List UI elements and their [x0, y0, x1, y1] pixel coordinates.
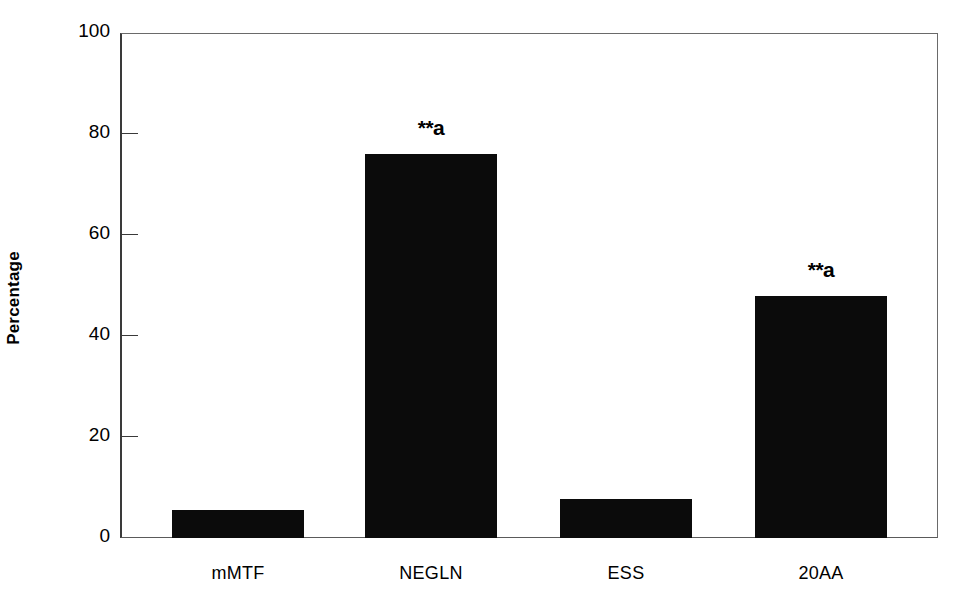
bar-mmtf	[172, 510, 304, 538]
y-axis-tick-label-text: 100	[78, 20, 110, 42]
y-axis-title: Percentage	[0, 0, 60, 611]
y-axis-tick	[120, 133, 138, 134]
x-axis-tick-label: mMTF	[211, 563, 264, 584]
bar-ess	[560, 499, 692, 538]
x-axis-tick-label: ESS	[608, 563, 645, 584]
bar-annotation-20aa: **a	[808, 258, 835, 282]
bar-chart: Percentage 020406080100 **a**a mMTFNEGLN…	[0, 0, 955, 611]
x-axis-tick-label: NEGLN	[399, 563, 463, 584]
bar-negln	[365, 154, 497, 538]
y-axis-tick	[120, 436, 138, 437]
y-axis-tick-label-text: 20	[89, 424, 110, 446]
y-axis-title-text: Percentage	[4, 251, 24, 345]
x-axis-tick-label: 20AA	[798, 563, 843, 584]
y-axis-tick-label-text: 80	[89, 121, 110, 143]
y-axis-tick	[120, 234, 138, 235]
y-axis-tick-label-text: 0	[99, 525, 110, 547]
bar-annotation-negln: **a	[418, 116, 445, 140]
y-axis-tick	[120, 335, 138, 336]
bar-20aa	[755, 296, 887, 538]
y-axis-tick-label-text: 60	[89, 222, 110, 244]
y-axis-tick-label-text: 40	[89, 323, 110, 345]
